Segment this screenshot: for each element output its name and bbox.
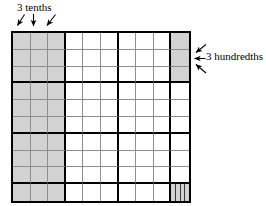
grid-cell-r1-c1 — [13, 33, 31, 50]
grid-cell-r9-c1 — [13, 167, 31, 184]
grid-cell-r4-c8 — [136, 83, 154, 100]
grid-cell-r2-c2 — [31, 50, 49, 67]
grid-cell-r7-c2 — [31, 134, 49, 151]
grid-cell-r10-c8 — [136, 184, 154, 201]
grid-cell-r9-c4 — [66, 167, 84, 184]
hundredths-arrow-1 — [196, 45, 206, 53]
grid-cell-r2-c7 — [119, 50, 137, 67]
grid-cell-r4-c7 — [119, 83, 137, 100]
grid-cell-r8-c6 — [101, 151, 119, 168]
grid-cell-r4-c4 — [66, 83, 84, 100]
grid-cell-r3-c9 — [154, 67, 172, 84]
grid-cell-r5-c10 — [171, 100, 189, 117]
grid-cell-r3-c3 — [48, 67, 66, 84]
grid-cell-r9-c3 — [48, 167, 66, 184]
grid-cell-r5-c6 — [101, 100, 119, 117]
grid-cell-r5-c1 — [13, 100, 31, 117]
thousandth-strip-4 — [185, 184, 189, 201]
grid-cell-r7-c1 — [13, 134, 31, 151]
grid-cell-r6-c9 — [154, 117, 172, 134]
grid-cell-r7-c8 — [136, 134, 154, 151]
grid-cell-r1-c5 — [83, 33, 101, 50]
grid-cell-r1-c9 — [154, 33, 172, 50]
grid-cell-r9-c9 — [154, 167, 172, 184]
grid-cell-r4-c10 — [171, 83, 189, 100]
grid-cell-r8-c3 — [48, 151, 66, 168]
grid-cell-r1-c7 — [119, 33, 137, 50]
grid-cell-r8-c2 — [31, 151, 49, 168]
grid-cell-r10-c6 — [101, 184, 119, 201]
grid-cell-r10-c2 — [31, 184, 49, 201]
grid-cell-r8-c9 — [154, 151, 172, 168]
grid-cell-r9-c5 — [83, 167, 101, 184]
grid-cell-r3-c1 — [13, 67, 31, 84]
grid-cell-r9-c7 — [119, 167, 137, 184]
grid-cell-r10-c1 — [13, 184, 31, 201]
grid-cell-r8-c8 — [136, 151, 154, 168]
grid-cell-r5-c8 — [136, 100, 154, 117]
grid-cell-r5-c9 — [154, 100, 172, 117]
grid-cell-r9-c8 — [136, 167, 154, 184]
grid-cell-r1-c4 — [66, 33, 84, 50]
grid-cell-r5-c2 — [31, 100, 49, 117]
grid-cell-r1-c10 — [171, 33, 189, 50]
grid-cell-r3-c5 — [83, 67, 101, 84]
grid-cell-r10-c3 — [48, 184, 66, 201]
grid-cell-r5-c5 — [83, 100, 101, 117]
grid-cell-r6-c10 — [171, 117, 189, 134]
grid-cell-r5-c3 — [48, 100, 66, 117]
grid-cell-r8-c10 — [171, 151, 189, 168]
grid-cell-r10-c9 — [154, 184, 172, 201]
grid-cell-r10-c7 — [119, 184, 137, 201]
grid-cell-r3-c8 — [136, 67, 154, 84]
hundredths-arrow-3 — [196, 65, 206, 74]
tenths-arrow-1 — [18, 15, 25, 26]
grid-cell-r2-c5 — [83, 50, 101, 67]
grid-cell-r8-c5 — [83, 151, 101, 168]
grid-cell-r2-c9 — [154, 50, 172, 67]
grid-cell-r6-c1 — [13, 117, 31, 134]
grid-cell-r3-c2 — [31, 67, 49, 84]
decimal-grid — [11, 31, 191, 203]
tenths-label: 3 tenths — [17, 1, 52, 13]
grid-cell-r2-c10 — [171, 50, 189, 67]
grid-cell-r6-c4 — [66, 117, 84, 134]
grid-cell-r9-c6 — [101, 167, 119, 184]
grid-cell-r7-c6 — [101, 134, 119, 151]
grid-cell-r2-c1 — [13, 50, 31, 67]
grid-cell-r1-c8 — [136, 33, 154, 50]
grid-cells — [13, 33, 189, 201]
grid-cell-r3-c6 — [101, 67, 119, 84]
grid-cell-r6-c3 — [48, 117, 66, 134]
grid-cell-r1-c3 — [48, 33, 66, 50]
tenths-arrow-3 — [47, 15, 56, 26]
grid-cell-r9-c10 — [171, 167, 189, 184]
grid-cell-r5-c4 — [66, 100, 84, 117]
grid-cell-r2-c6 — [101, 50, 119, 67]
grid-cell-r5-c7 — [119, 100, 137, 117]
grid-cell-r1-c6 — [101, 33, 119, 50]
grid-cell-r6-c2 — [31, 117, 49, 134]
grid-cell-r7-c9 — [154, 134, 172, 151]
grid-cell-r9-c2 — [31, 167, 49, 184]
grid-cell-r8-c4 — [66, 151, 84, 168]
grid-cell-r3-c10 — [171, 67, 189, 84]
grid-cell-r4-c3 — [48, 83, 66, 100]
grid-cell-r7-c10 — [171, 134, 189, 151]
grid-cell-r7-c4 — [66, 134, 84, 151]
hundredths-label: 3 hundredths — [206, 50, 263, 62]
grid-cell-r1-c2 — [31, 33, 49, 50]
grid-cell-r4-c5 — [83, 83, 101, 100]
grid-cell-r10-c4 — [66, 184, 84, 201]
grid-cell-r8-c7 — [119, 151, 137, 168]
grid-cell-r6-c6 — [101, 117, 119, 134]
grid-cell-r6-c7 — [119, 117, 137, 134]
grid-cell-r2-c4 — [66, 50, 84, 67]
grid-cell-r7-c3 — [48, 134, 66, 151]
grid-cell-r8-c1 — [13, 151, 31, 168]
grid-cell-r10-c10 — [171, 184, 189, 201]
grid-cell-r2-c3 — [48, 50, 66, 67]
grid-cell-r2-c8 — [136, 50, 154, 67]
grid-cell-r7-c5 — [83, 134, 101, 151]
grid-cell-r6-c8 — [136, 117, 154, 134]
